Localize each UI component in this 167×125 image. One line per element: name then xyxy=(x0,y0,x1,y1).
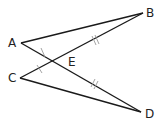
label-b: B xyxy=(146,6,154,20)
segment-cb xyxy=(20,13,143,78)
label-c: C xyxy=(8,71,16,85)
label-e: E xyxy=(68,55,76,69)
segment-ad xyxy=(21,43,141,112)
segment-ab xyxy=(21,13,143,43)
segment-cd xyxy=(20,78,141,112)
geometry-diagram: A B C D E xyxy=(0,0,167,125)
tick-eb-1 xyxy=(92,36,96,45)
label-d: D xyxy=(145,107,154,121)
label-a: A xyxy=(8,36,17,50)
